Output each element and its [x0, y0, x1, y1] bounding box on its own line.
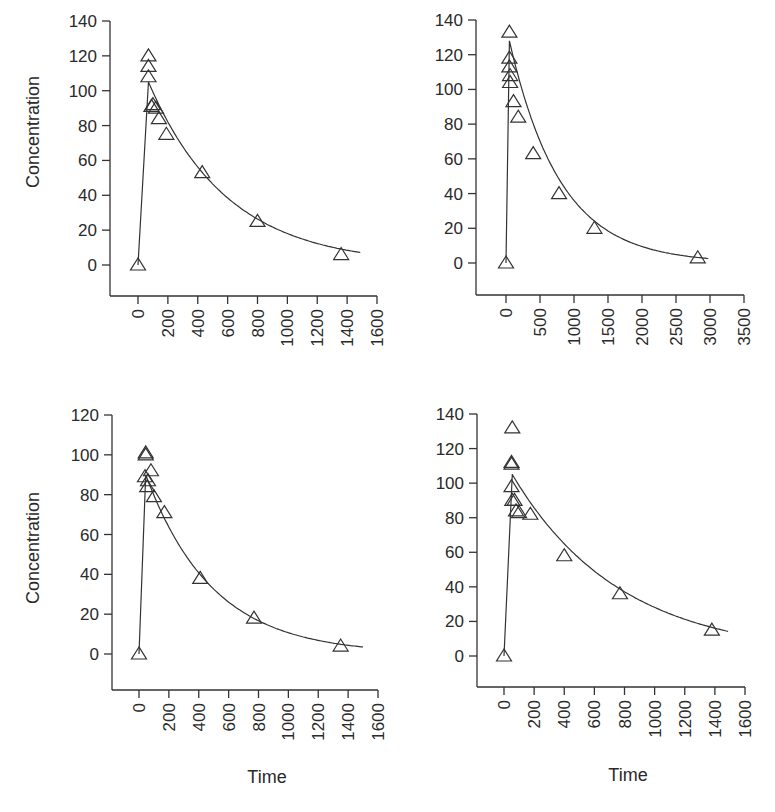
- x-tick-label: 1200: [309, 703, 328, 741]
- x-tick-label: 1000: [278, 309, 297, 347]
- data-point-triangle-icon: [552, 187, 567, 199]
- x-tick-label: 3000: [701, 308, 720, 346]
- y-tick-label: 0: [454, 254, 463, 273]
- y-tick-label: 20: [80, 605, 99, 624]
- x-tick-label: 800: [249, 309, 268, 337]
- x-tick-label: 1600: [368, 309, 387, 347]
- x-tick-label: 0: [497, 308, 516, 317]
- x-tick-label: 2000: [633, 308, 652, 346]
- y-tick-label: 0: [455, 647, 464, 666]
- x-tick-label: 1000: [565, 308, 584, 346]
- x-tick-label: 200: [525, 700, 544, 728]
- data-point-triangle-icon: [502, 25, 517, 37]
- y-tick-label: 100: [436, 474, 464, 493]
- y-tick-label: 120: [436, 440, 464, 459]
- x-tick-label: 1200: [676, 700, 695, 738]
- x-tick-label: 3500: [735, 308, 754, 346]
- data-point-triangle-icon: [505, 421, 520, 433]
- x-tick-label: 400: [189, 309, 208, 337]
- y-tick-label: 140: [436, 405, 464, 424]
- x-tick-label: 800: [250, 703, 269, 731]
- y-tick-label: 140: [435, 11, 463, 30]
- y-tick-label: 100: [69, 82, 97, 101]
- data-point-triangle-icon: [193, 571, 208, 583]
- data-point-triangle-icon: [526, 147, 541, 159]
- x-tick-label: 600: [219, 309, 238, 337]
- panel-top-left: 0204060801001201400200400600800100012001…: [69, 12, 387, 347]
- x-tick-label: 200: [159, 309, 178, 337]
- x-tick-label: 0: [130, 703, 149, 712]
- y-tick-label: 40: [445, 578, 464, 597]
- x-tick-label: 1000: [279, 703, 298, 741]
- fitted-curve: [504, 475, 728, 657]
- panel-bottom-right: 0204060801001201400200400600800100012001…: [436, 405, 755, 738]
- x-tick-label: 500: [531, 308, 550, 336]
- y-tick-label: 80: [80, 486, 99, 505]
- y-tick-label: 100: [435, 80, 463, 99]
- x-tick-label: 400: [190, 703, 209, 731]
- y-tick-label: 40: [444, 185, 463, 204]
- x-axis-label-bottom-left: Time: [247, 767, 286, 787]
- data-point-triangle-icon: [507, 493, 522, 505]
- y-tick-label: 40: [80, 565, 99, 584]
- y-tick-label: 80: [78, 117, 97, 136]
- y-tick-label: 20: [445, 612, 464, 631]
- data-point-triangle-icon: [511, 110, 526, 122]
- x-tick-label: 600: [220, 703, 239, 731]
- data-point-triangle-icon: [143, 464, 158, 476]
- x-tick-label: 1600: [369, 703, 388, 741]
- y-tick-label: 60: [444, 150, 463, 169]
- panel-bottom-left: 0204060801001200200400600800100012001400…: [71, 406, 388, 741]
- x-tick-label: 1400: [706, 700, 725, 738]
- y-axis-label-top: Concentration: [23, 76, 43, 188]
- x-tick-label: 1000: [646, 700, 665, 738]
- x-tick-label: 0: [129, 309, 148, 318]
- y-tick-label: 120: [69, 47, 97, 66]
- fitted-curve: [138, 82, 360, 265]
- x-tick-label: 2500: [667, 308, 686, 346]
- y-tick-label: 0: [88, 256, 97, 275]
- x-tick-label: 800: [616, 700, 635, 728]
- y-tick-label: 20: [78, 221, 97, 240]
- data-point-triangle-icon: [505, 493, 520, 505]
- x-tick-label: 1600: [736, 700, 755, 738]
- y-axis-label-bottom: Concentration: [23, 492, 43, 604]
- y-tick-label: 120: [71, 406, 99, 425]
- x-tick-label: 0: [495, 700, 514, 709]
- x-tick-label: 600: [585, 700, 604, 728]
- x-tick-label: 1200: [308, 309, 327, 347]
- y-tick-label: 80: [445, 509, 464, 528]
- y-tick-label: 100: [71, 446, 99, 465]
- panel-top-right: 0204060801001201400500100015002000250030…: [435, 11, 754, 346]
- fitted-curve: [139, 475, 363, 654]
- y-tick-label: 0: [90, 645, 99, 664]
- x-tick-label: 1400: [339, 703, 358, 741]
- y-tick-label: 40: [78, 186, 97, 205]
- figure-canvas: 0204060801001201400200400600800100012001…: [0, 0, 775, 812]
- x-axis-label-bottom-right: Time: [608, 765, 647, 785]
- data-point-triangle-icon: [587, 221, 602, 233]
- x-tick-label: 200: [160, 703, 179, 731]
- x-tick-label: 1400: [338, 309, 357, 347]
- y-tick-label: 20: [444, 219, 463, 238]
- x-tick-label: 400: [555, 700, 574, 728]
- x-tick-label: 1500: [599, 308, 618, 346]
- y-tick-label: 60: [78, 151, 97, 170]
- y-tick-label: 140: [69, 12, 97, 31]
- y-tick-label: 60: [445, 543, 464, 562]
- y-tick-label: 60: [80, 526, 99, 545]
- data-point-triangle-icon: [557, 549, 572, 561]
- y-tick-label: 120: [435, 46, 463, 65]
- y-tick-label: 80: [444, 115, 463, 134]
